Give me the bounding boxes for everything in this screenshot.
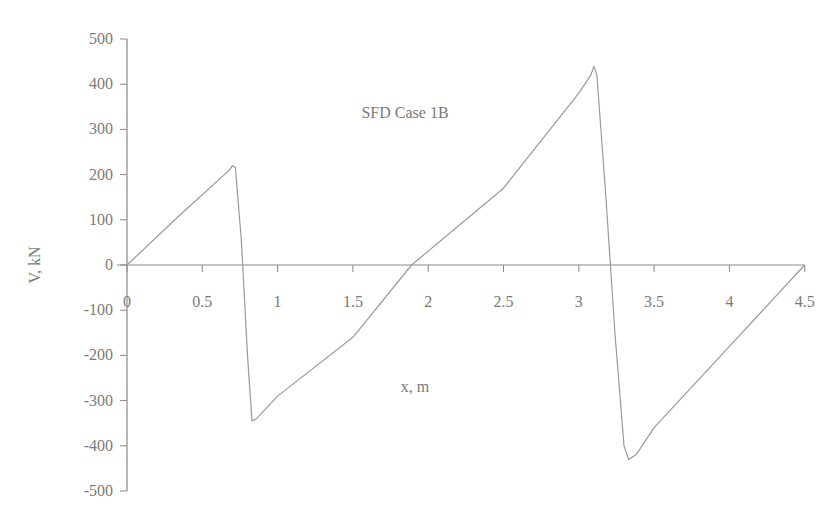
- x-axis: 00.511.522.533.544.5: [117, 265, 815, 310]
- x-tick-label: 1: [274, 293, 282, 310]
- y-tick-label: -300: [84, 392, 113, 409]
- chart-title: SFD Case 1B: [361, 104, 448, 121]
- plot-area: [127, 66, 805, 459]
- y-tick-label: 300: [89, 120, 113, 137]
- y-tick-label: 500: [89, 30, 113, 47]
- x-tick-label: 2: [424, 293, 432, 310]
- y-tick-label: -500: [84, 482, 113, 499]
- x-tick-label: 0: [123, 293, 131, 310]
- y-tick-label: 0: [105, 256, 113, 273]
- x-tick-label: 1.5: [343, 293, 363, 310]
- x-tick-label: 0.5: [192, 293, 212, 310]
- y-tick-label: -200: [84, 346, 113, 363]
- y-axis-title: V, kN: [26, 246, 43, 283]
- x-tick-label: 3: [575, 293, 583, 310]
- x-tick-label: 3.5: [644, 293, 664, 310]
- x-tick-label: 4: [725, 293, 733, 310]
- y-tick-label: 200: [89, 166, 113, 183]
- y-tick-label: -400: [84, 437, 113, 454]
- shear-force-line: [127, 66, 805, 459]
- y-tick-label: 400: [89, 75, 113, 92]
- y-tick-label: -100: [84, 301, 113, 318]
- y-tick-label: 100: [89, 211, 113, 228]
- x-tick-label: 4.5: [795, 293, 815, 310]
- sfd-chart: 5004003002001000-100-200-300-400-500 00.…: [0, 0, 837, 520]
- x-axis-title: x, m: [401, 378, 430, 395]
- x-tick-label: 2.5: [494, 293, 514, 310]
